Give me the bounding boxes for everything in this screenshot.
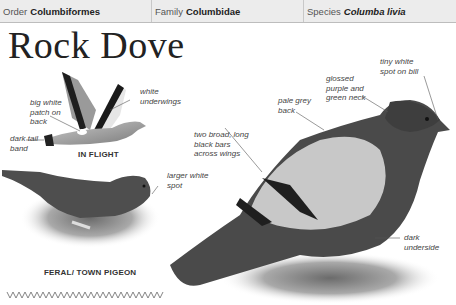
zigzag-flight-pattern-icon xyxy=(7,292,163,298)
label-dark-underside: dark underside xyxy=(404,233,444,252)
label-pale-grey-back: pale grey back xyxy=(278,96,314,115)
label-white-patch: big white patch on back xyxy=(30,98,70,127)
caption-in-flight: IN FLIGHT xyxy=(78,150,119,159)
caption-feral-town-pigeon: FERAL/ TOWN PIGEON xyxy=(44,268,136,277)
label-wing-bars: two broad, long black bars across wings xyxy=(194,130,256,159)
feral-pigeon-illustration xyxy=(2,170,160,248)
label-glossed-neck: glossed purple and green neck xyxy=(326,74,366,103)
label-bill-spot: tiny white spot on bill xyxy=(380,57,426,76)
label-white-underwings: white underwings xyxy=(140,87,190,106)
label-larger-white-spot: larger white spot xyxy=(167,171,217,190)
label-dark-tail-band: dark tail band xyxy=(10,134,44,153)
